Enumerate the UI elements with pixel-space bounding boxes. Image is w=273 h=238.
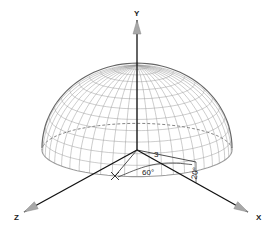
longitude-line <box>42 65 137 150</box>
elevation-label: 20° <box>190 167 201 180</box>
axis-label-x: X <box>256 213 262 222</box>
longitude-line <box>45 65 137 157</box>
y-axis-arrowhead-icon <box>133 20 141 34</box>
longitude-line <box>43 65 137 153</box>
x-axis-arrowhead-icon <box>234 202 248 212</box>
longitude-line <box>137 65 229 157</box>
longitude-line <box>137 65 231 153</box>
z-axis-line <box>24 150 137 212</box>
axis-label-y: Y <box>134 9 140 18</box>
x-axis-line <box>137 150 248 212</box>
radius-vector <box>137 150 196 162</box>
axis-label-z: Z <box>14 213 19 222</box>
longitude-line <box>137 65 212 166</box>
radius-label: 3 <box>154 150 159 159</box>
longitude-line <box>62 65 137 166</box>
hemisphere-diagram: Y X Z 3 60° 20° <box>0 0 273 238</box>
longitude-line <box>137 65 232 150</box>
z-axis-arrowhead-icon <box>24 202 38 212</box>
azimuth-label: 60° <box>142 168 154 177</box>
axes <box>24 20 248 212</box>
